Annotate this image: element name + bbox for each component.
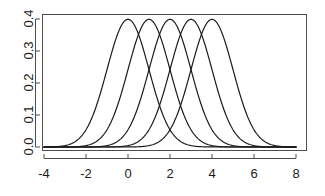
density-curve <box>44 19 296 147</box>
plot-frame-box <box>43 15 307 151</box>
y-axis-tick-label: 0.2 <box>22 71 35 95</box>
y-axis-tick-label: 0.4 <box>22 7 35 31</box>
x-axis-tick-label: 8 <box>292 167 299 180</box>
x-axis-tick-label: 2 <box>166 167 173 180</box>
density-curve <box>44 19 296 147</box>
x-axis-tick-label: -4 <box>38 167 50 180</box>
density-curve <box>44 19 296 147</box>
x-axis-tick-label: 4 <box>208 167 215 180</box>
y-axis-tick-label: 0.1 <box>22 103 35 127</box>
density-curve <box>44 19 296 147</box>
y-axis <box>36 19 41 147</box>
x-axis <box>44 154 296 159</box>
density-curves-group <box>44 19 296 147</box>
x-axis-tick-label: -2 <box>80 167 92 180</box>
normal-curves-plot: -4-202468 0.00.10.20.30.4 <box>0 0 325 196</box>
density-curve <box>44 19 296 147</box>
x-axis-tick-label: 6 <box>250 167 257 180</box>
y-axis-tick-label: 0.0 <box>22 135 35 159</box>
y-axis-tick-label: 0.3 <box>22 39 35 63</box>
x-axis-tick-label: 0 <box>124 167 131 180</box>
